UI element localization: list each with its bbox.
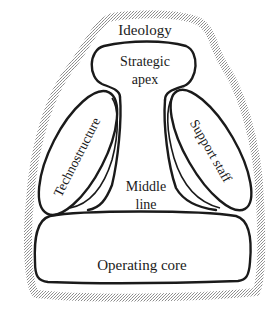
middle-line-label-line2: line [136,197,157,212]
technostructure-label: Technostructure [51,115,104,199]
strategic-apex-label-line1: Strategic [120,54,170,69]
support-staff-label: Support staff [187,117,235,185]
strategic-apex-label-line2: apex [132,72,158,87]
operating-core-label: Operating core [97,257,187,273]
ideology-label: Ideology [118,22,172,38]
mintzberg-diagram: Ideology Strategic apex Technostructure … [0,0,277,313]
middle-line-label-line1: Middle [126,179,166,194]
